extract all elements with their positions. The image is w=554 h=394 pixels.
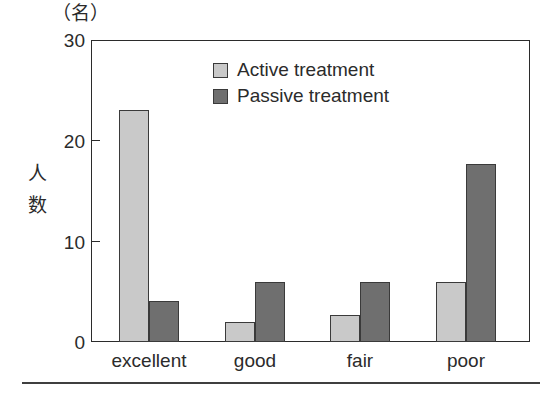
legend-entry-passive: Passive treatment (213, 83, 389, 109)
x-tick-label-poor: poor (421, 350, 511, 372)
x-tick-label-fair: fair (315, 350, 405, 372)
bar-passive-excellent (149, 301, 179, 342)
legend-label-active: Active treatment (237, 60, 374, 80)
bar-passive-good (255, 282, 285, 342)
legend-swatch-passive-icon (213, 89, 228, 104)
bar-active-fair (330, 315, 360, 342)
bar-active-good (225, 322, 255, 342)
x-tick-label-excellent: excellent (99, 350, 199, 372)
bottom-divider (22, 382, 540, 384)
bar-chart-figure: （名） 人 数 30 20 10 0 excellent good fair p… (0, 0, 554, 394)
bar-passive-fair (360, 282, 390, 342)
chart-legend: Active treatment Passive treatment (213, 57, 389, 109)
bar-active-excellent (119, 110, 149, 342)
bar-active-poor (436, 282, 466, 342)
legend-label-passive: Passive treatment (237, 86, 389, 106)
x-tick-label-good: good (210, 350, 300, 372)
bar-passive-poor (466, 164, 496, 342)
legend-entry-active: Active treatment (213, 57, 389, 83)
legend-swatch-active-icon (213, 63, 228, 78)
